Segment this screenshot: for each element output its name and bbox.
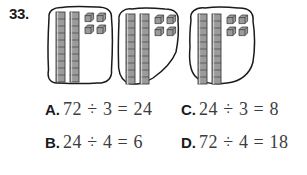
- answer-choice-c-label: C.: [181, 101, 196, 118]
- answer-choice-b[interactable]: B.24 ÷ 4 = 6: [45, 129, 143, 156]
- answer-choice-b-expression: 24 ÷ 4 = 6: [63, 132, 143, 152]
- answer-choice-d-label: D.: [181, 134, 196, 151]
- answer-choice-d[interactable]: D.72 ÷ 4 = 18: [181, 129, 289, 156]
- answer-choice-b-label: B.: [45, 134, 60, 151]
- answer-row-2: B.24 ÷ 4 = 6 D.72 ÷ 4 = 18: [0, 129, 307, 162]
- answer-choice-a-label: A.: [45, 101, 60, 118]
- blocks-group-2: [118, 8, 178, 84]
- blocks-group-3: [190, 7, 255, 84]
- answer-choice-c[interactable]: C.24 ÷ 3 = 8: [181, 96, 279, 123]
- worksheet-page: 33.: [0, 0, 307, 175]
- answer-row-1: A.72 ÷ 3 = 24 C.24 ÷ 3 = 8: [0, 96, 307, 129]
- question-number: 33.: [9, 5, 29, 22]
- base-ten-blocks-figure: [40, 4, 265, 92]
- answer-choice-a[interactable]: A.72 ÷ 3 = 24: [45, 96, 153, 123]
- answer-choices: A.72 ÷ 3 = 24 C.24 ÷ 3 = 8 B.24 ÷ 4 = 6 …: [0, 96, 307, 162]
- blocks-group-1: [48, 7, 112, 84]
- answer-choice-a-expression: 72 ÷ 3 = 24: [63, 99, 153, 119]
- answer-choice-d-expression: 72 ÷ 4 = 18: [199, 132, 289, 152]
- answer-choice-c-expression: 24 ÷ 3 = 8: [199, 99, 279, 119]
